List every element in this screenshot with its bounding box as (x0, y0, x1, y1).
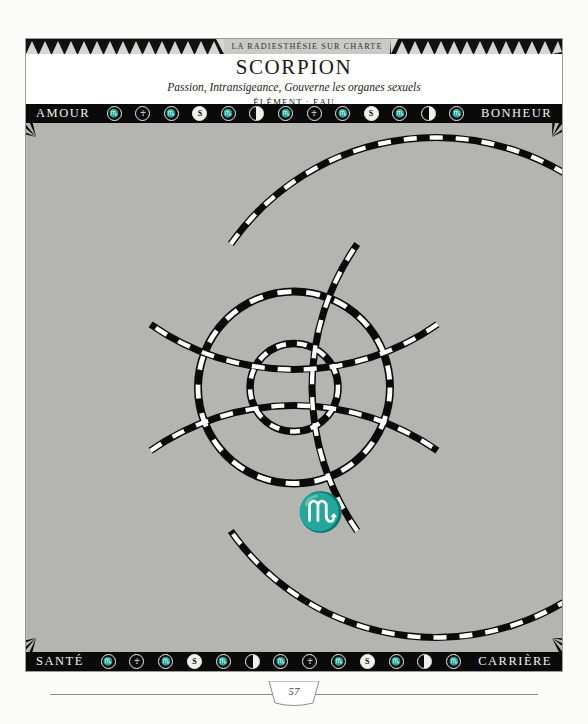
quadrant-label-carriere: CARRIÈRE (468, 654, 562, 669)
dollar-icon: S (187, 654, 202, 669)
page-title: SCORPION (26, 55, 562, 79)
page-number: 57 (253, 685, 335, 708)
page-number-ornament: 57 (253, 681, 335, 708)
scorpio-glyph-icon: ♏ (107, 106, 122, 121)
ornament-band-left (26, 39, 224, 54)
scorpio-glyph-icon: ♏ (273, 654, 288, 669)
globe-icon: ☥ (129, 654, 144, 669)
scorpio-glyph-icon: ♏ (158, 654, 173, 669)
header-bar-bottom: SANTÉ ♏☥♏S♏♏☥♏S♏♏ CARRIÈRE (26, 652, 562, 671)
scorpio-glyph-icon: ♏ (221, 106, 236, 121)
globe-icon: ☥ (302, 654, 317, 669)
scorpio-glyph-icon: ♏ (392, 106, 407, 121)
globe-icon: ☥ (135, 106, 150, 121)
triangle-pattern-right (390, 39, 562, 54)
band-title: LA RADIESTHÉSIE SUR CHARTE (224, 39, 390, 54)
moon-icon (245, 654, 260, 669)
scorpio-glyph-icon: ♏ (216, 654, 231, 669)
symbol-strip-top: ♏☥♏S♏♏☥♏S♏♏ (100, 106, 471, 121)
scorpio-glyph-icon: ♏ (446, 654, 461, 669)
symbol-strip-bottom: ♏☥♏S♏♏☥♏S♏♏ (94, 654, 468, 669)
quadrant-label-amour: AMOUR (26, 106, 100, 121)
moon-icon (421, 106, 436, 121)
scorpio-glyph-icon: ♏ (449, 106, 464, 121)
quadrant-label-bonheur: BONHEUR (471, 106, 562, 121)
scorpio-glyph-icon: ♏ (101, 654, 116, 669)
header-bar-top: AMOUR ♏☥♏S♏♏☥♏S♏♏ BONHEUR (26, 104, 562, 123)
radiesthesia-wheel: ♏ (26, 123, 562, 652)
quadrant-label-sante: SANTÉ (26, 654, 94, 669)
triangle-pattern-left (26, 39, 224, 54)
globe-icon: ☥ (307, 106, 322, 121)
dollar-icon: S (360, 654, 375, 669)
wheel-graphic (26, 123, 562, 652)
dollar-icon: S (192, 106, 207, 121)
scorpio-glyph-icon: ♏ (331, 654, 346, 669)
moon-icon (417, 654, 432, 669)
scorpio-glyph-icon: ♏ (278, 106, 293, 121)
scorpio-glyph-icon: ♏ (389, 654, 404, 669)
dollar-icon: S (364, 106, 379, 121)
scorpio-glyph-icon: ♏ (335, 106, 350, 121)
page-subtitle: Passion, Intransigeance, Gouverne les or… (26, 79, 562, 95)
moon-icon (249, 106, 264, 121)
scorpio-glyph-icon: ♏ (164, 106, 179, 121)
ornament-band-right (390, 39, 562, 54)
center-zodiac-glyph: ♏ (294, 483, 346, 541)
title-block: SCORPION Passion, Intransigeance, Gouver… (26, 55, 562, 109)
chart-page: LA RADIESTHÉSIE SUR CHARTE SCORPION Pass… (0, 0, 588, 724)
